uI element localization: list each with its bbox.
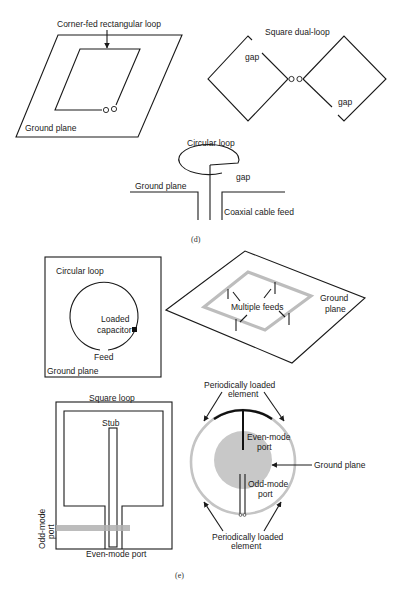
rectangular-loop	[55, 49, 140, 110]
left-diamond-loop	[208, 36, 288, 121]
odd-mode-label-line1: Odd-mode	[248, 479, 288, 489]
odd-mode-feed-bar	[56, 525, 130, 531]
feed-terminal-right	[111, 106, 116, 111]
ground-plane-label: Ground plane	[135, 181, 187, 191]
ground-label-line1: Ground	[320, 293, 349, 303]
ground-plane-label: Ground plane	[314, 460, 366, 470]
loaded-circular-loop-figure: Circular loop Loaded capacitor Feed Grou…	[45, 257, 161, 377]
periodic-ring-figure: Periodically loaded element Even-mode po…	[191, 380, 366, 551]
caption-d: (d)	[191, 235, 201, 244]
caption-e: (e)	[175, 571, 184, 580]
coax-feed-label: Coaxial cable feed	[224, 207, 294, 217]
corner-fed-title: Corner-fed rectangular loop	[57, 19, 161, 29]
corner-fed-loop-figure: Corner-fed rectangular loop Ground plane	[16, 19, 182, 137]
dual-loop-figure: Square dual-loop gap gap	[208, 27, 386, 121]
dual-loop-title: Square dual-loop	[265, 27, 330, 37]
circular-loop-title: Circular loop	[187, 138, 235, 148]
leader-line	[233, 292, 240, 301]
square-loop-title: Square loop	[89, 393, 135, 403]
odd-mode-label-line2: port	[258, 489, 273, 499]
ground-plane-parallelogram	[16, 35, 182, 137]
capacitor-label-line1: Loaded	[101, 314, 130, 324]
capacitor-label-line2: capacitor	[97, 325, 132, 335]
feed-label: Feed	[94, 352, 114, 362]
square-loop-gray	[204, 272, 311, 330]
even-mode-label-line2: port	[257, 442, 272, 452]
top-periodic-label-line2: element	[228, 389, 259, 399]
circular-loop-title: Circular loop	[56, 266, 104, 276]
ground-plane-label: Ground plane	[25, 123, 77, 133]
even-mode-label-line1: Even-mode	[247, 432, 291, 442]
circular-loop-ellipse	[179, 145, 239, 175]
square-loop-stub-figure: Square loop Stub Even-mode port Odd-mode…	[37, 393, 172, 559]
circular-coax-figure: Circular loop gap Ground plane Coaxial c…	[130, 138, 294, 220]
capacitor-element	[132, 327, 137, 332]
feed-terminal-left	[289, 76, 294, 81]
ground-plane-left	[130, 192, 198, 220]
ground-plane-label: Ground plane	[47, 366, 99, 376]
gap-label-left: gap	[245, 52, 259, 62]
leader-line	[264, 289, 271, 298]
feed-terminal-left	[103, 107, 108, 112]
stub-label: Stub	[102, 418, 120, 428]
right-diamond-gap-segment	[303, 79, 332, 107]
gap-label: gap	[236, 172, 250, 182]
ground-label-line2: plane	[325, 304, 346, 314]
odd-port-terminal-right	[243, 514, 246, 517]
multi-feed-figure: Multiple feeds Ground plane	[166, 251, 365, 363]
odd-mode-port-line2: port	[46, 524, 56, 539]
right-diamond-loop	[303, 36, 386, 121]
feed-terminal-right	[297, 76, 302, 81]
loop-antenna-diagram: Corner-fed rectangular loop Ground plane…	[0, 0, 396, 598]
odd-port-terminal-left	[239, 514, 242, 517]
multiple-feeds-label: Multiple feeds	[231, 302, 283, 312]
even-mode-port-label: Even-mode port	[86, 549, 147, 559]
bottom-periodic-label-line2: element	[231, 541, 262, 551]
gap-label-right: gap	[338, 97, 352, 107]
